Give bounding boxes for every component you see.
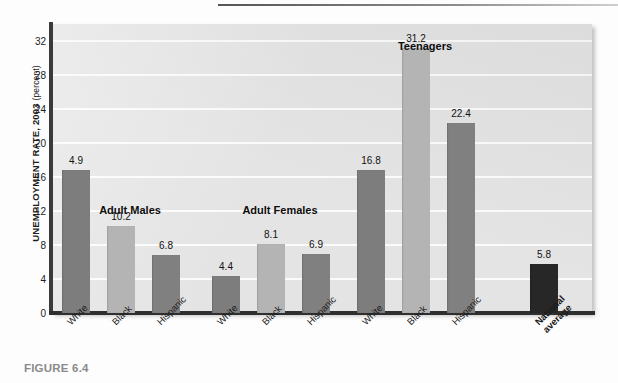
y-tick-label: 28	[16, 70, 46, 81]
y-tick-label: 8	[16, 240, 46, 251]
bar-value-label: 22.4	[439, 108, 483, 119]
group-title: Adult Females	[242, 204, 317, 216]
bar-value-label: 5.8	[522, 249, 566, 260]
group-title: Adult Males	[99, 204, 161, 216]
bar[interactable]	[62, 170, 90, 313]
y-tick-label: 12	[16, 206, 46, 217]
y-tick-label: 0	[16, 308, 46, 319]
bar[interactable]	[107, 226, 135, 313]
y-tick-label: 32	[16, 36, 46, 47]
figure-caption: FIGURE 6.4	[24, 362, 89, 374]
bar-value-label: 4.9	[54, 155, 98, 166]
bar[interactable]	[402, 48, 430, 313]
y-axis-ticks: 048121620242832	[8, 0, 46, 350]
bar-value-label: 4.4	[204, 261, 248, 272]
bar[interactable]	[357, 170, 385, 313]
bar-value-label: 6.9	[294, 239, 338, 250]
x-axis-labels: WhiteBlackHispanicWhiteBlackHispanicWhit…	[52, 0, 612, 80]
bar[interactable]	[257, 244, 285, 313]
bar-value-label: 16.8	[349, 155, 393, 166]
figure-page: UNEMPLOYMENT RATE, 2003 (percent) 048121…	[0, 0, 618, 383]
y-tick-label: 4	[16, 274, 46, 285]
y-tick-label: 20	[16, 138, 46, 149]
bar[interactable]	[447, 123, 475, 313]
bar-chart: UNEMPLOYMENT RATE, 2003 (percent) 048121…	[0, 0, 618, 350]
y-tick-label: 16	[16, 172, 46, 183]
bar-value-label: 6.8	[144, 240, 188, 251]
y-tick-label: 24	[16, 104, 46, 115]
bar-value-label: 8.1	[249, 229, 293, 240]
